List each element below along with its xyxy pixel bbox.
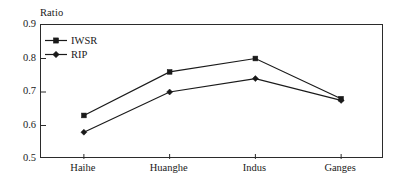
- x-tick-label-huanghe: Huanghe: [150, 162, 188, 174]
- y-tick-label: 0.7: [2, 85, 36, 96]
- y-tick-label: 0.9: [2, 18, 36, 29]
- x-tick-label-ganges: Ganges: [324, 162, 356, 174]
- y-axis-title: Ratio: [40, 7, 63, 19]
- legend-marker-diamond-icon: [44, 48, 68, 61]
- data-point-rip-huanghe: [167, 89, 173, 95]
- legend-label-rip: RIP: [68, 48, 87, 61]
- data-point-iwsr-haihe: [81, 113, 86, 118]
- series-line-iwsr: [84, 59, 341, 116]
- legend: IWSRRIP: [44, 34, 134, 62]
- data-point-rip-indus: [252, 76, 258, 82]
- data-point-rip-haihe: [81, 129, 87, 135]
- legend-marker-square-icon: [44, 34, 68, 47]
- legend-label-iwsr: IWSR: [68, 34, 97, 47]
- x-axis-tick-labels: HaiheHuangheIndusGanges: [40, 162, 383, 182]
- x-tick-label-indus: Indus: [243, 162, 266, 174]
- legend-marker: [53, 51, 60, 58]
- legend-item-rip: RIP: [44, 48, 134, 61]
- y-axis-tick-labels: 0.50.60.70.80.9: [0, 24, 36, 158]
- y-tick-label: 0.6: [2, 119, 36, 130]
- series-line-rip: [84, 79, 341, 133]
- legend-marker: [53, 38, 58, 43]
- line-chart: Ratio 0.50.60.70.80.9 HaiheHuangheIndusG…: [0, 0, 399, 189]
- y-tick-label: 0.5: [2, 152, 36, 163]
- data-point-iwsr-indus: [253, 56, 258, 61]
- data-point-iwsr-huanghe: [167, 70, 172, 75]
- x-tick-label-haihe: Haihe: [70, 162, 95, 174]
- y-tick-label: 0.8: [2, 52, 36, 63]
- legend-item-iwsr: IWSR: [44, 34, 134, 47]
